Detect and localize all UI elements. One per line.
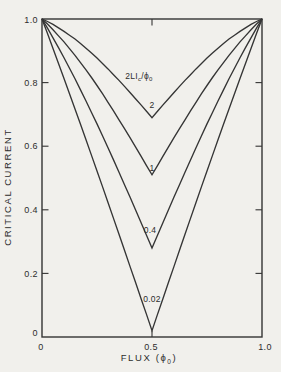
x-tick-label-0: 0 — [38, 342, 43, 352]
x-tick-label-1.0: 1.0 — [258, 342, 272, 352]
x-tick-label-0.5: 0.5 — [144, 342, 158, 352]
scanned-figure-page: 1.0 0.8 0.6 0.4 0.2 0 0 0.5 1.0 CRITICAL… — [0, 0, 281, 372]
y-axis-title: CRITICAL CURRENT — [2, 128, 13, 246]
y-tick-label-0.2: 0.2 — [24, 269, 38, 279]
curve-label-0.4: 0.4 — [144, 225, 157, 235]
y-tick-label-0.4: 0.4 — [24, 205, 38, 215]
curve-label-0.02: 0.02 — [143, 294, 161, 304]
y-tick-label-0.6: 0.6 — [24, 141, 38, 151]
plot-border — [42, 19, 262, 337]
y-tick-label-0.8: 0.8 — [24, 78, 38, 88]
annotation-over-phi: /ϕ — [141, 71, 149, 81]
curve-beta-1 — [42, 19, 262, 175]
parameter-annotation: 2LIc/ϕ0 — [125, 71, 153, 82]
annotation-subscript-0: 0 — [149, 76, 153, 82]
x-axis-title: FLUX (ϕ0) — [121, 352, 178, 365]
curve-beta-0.4 — [42, 19, 262, 248]
y-tick-labels: 1.0 0.8 0.6 0.4 0.2 0 — [24, 15, 38, 338]
y-tick-label-1.0: 1.0 — [24, 15, 38, 25]
tick-marks — [42, 19, 262, 337]
x-axis-title-close-paren: ) — [173, 352, 178, 363]
y-tick-label-0: 0 — [33, 328, 38, 338]
chart-canvas: 1.0 0.8 0.6 0.4 0.2 0 0 0.5 1.0 CRITICAL… — [0, 0, 281, 372]
annotation-main: 2LI — [125, 71, 138, 81]
x-axis-title-main: FLUX (ϕ — [121, 352, 168, 363]
curve-family — [42, 19, 262, 331]
curve-label-2: 2 — [149, 100, 154, 110]
curve-label-1: 1 — [149, 163, 154, 173]
x-tick-labels: 0 0.5 1.0 — [38, 342, 272, 352]
